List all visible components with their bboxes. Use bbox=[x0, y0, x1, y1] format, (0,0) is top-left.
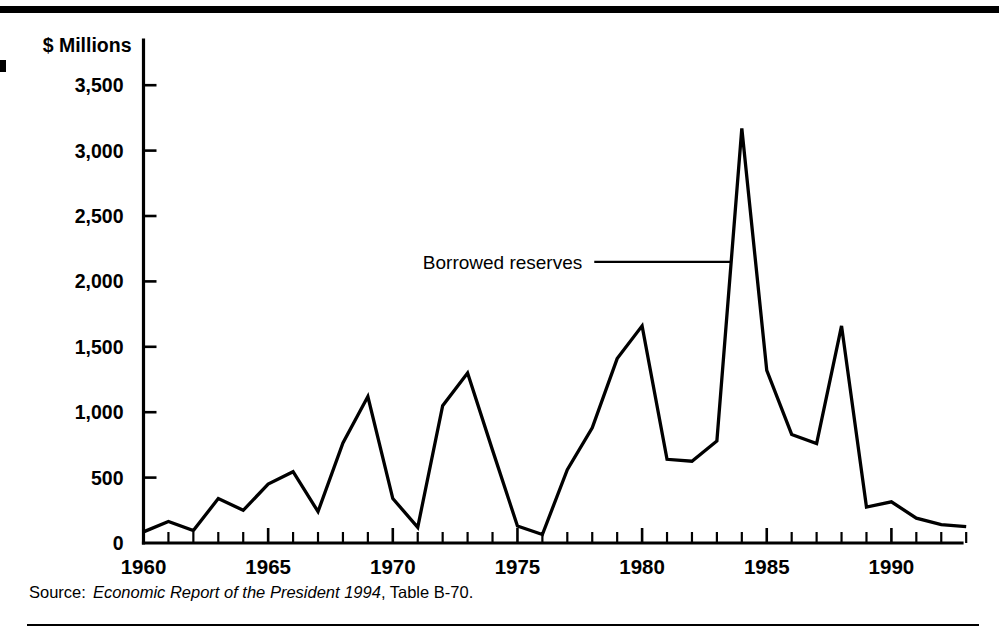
y-tick-label: 0 bbox=[113, 532, 124, 554]
x-tick-label: 1965 bbox=[245, 555, 291, 578]
source-rest: , Table B-70. bbox=[381, 583, 473, 601]
x-tick-label: 1990 bbox=[869, 555, 915, 578]
y-axis-ticks bbox=[144, 85, 157, 477]
x-tick-label: 1970 bbox=[370, 555, 416, 578]
series-annotation: Borrowed reserves bbox=[423, 252, 732, 273]
annotation-label: Borrowed reserves bbox=[423, 252, 582, 273]
series-path-borrowed-reserves bbox=[144, 128, 967, 534]
source-title: Economic Report of the President 1994 bbox=[93, 583, 381, 601]
y-axis-title-text: $ Millions bbox=[43, 34, 132, 56]
x-axis-tick-labels: 1960196519701975198019851990 bbox=[121, 555, 915, 578]
y-tick-label: 3,500 bbox=[75, 74, 124, 96]
y-tick-label: 2,500 bbox=[75, 205, 124, 227]
x-tick-label: 1980 bbox=[619, 555, 665, 578]
y-tick-label: 3,000 bbox=[75, 140, 124, 162]
y-axis-title: $ Millions bbox=[43, 34, 132, 56]
y-tick-label: 500 bbox=[91, 467, 124, 489]
source-prefix: Source: bbox=[29, 583, 86, 601]
data-series bbox=[144, 128, 967, 534]
y-tick-label: 2,000 bbox=[75, 270, 124, 292]
x-tick-label: 1960 bbox=[121, 555, 167, 578]
x-axis-ticks bbox=[168, 528, 966, 543]
y-axis-tick-labels: 05001,0001,5002,0002,5003,0003,500 bbox=[75, 74, 124, 554]
y-tick-label: 1,500 bbox=[75, 336, 124, 358]
bottom-rule bbox=[27, 624, 979, 626]
y-tick-label: 1,000 bbox=[75, 401, 124, 423]
axes bbox=[144, 40, 963, 543]
x-tick-label: 1975 bbox=[495, 555, 541, 578]
x-tick-label: 1985 bbox=[744, 555, 790, 578]
source-note: Source:Economic Report of the President … bbox=[29, 583, 473, 602]
borrowed-reserves-line-chart: 05001,0001,5002,0002,5003,0003,500 19601… bbox=[0, 0, 999, 600]
figure-page: 05001,0001,5002,0002,5003,0003,500 19601… bbox=[0, 0, 999, 638]
chart-area: 05001,0001,5002,0002,5003,0003,500 19601… bbox=[0, 0, 999, 600]
